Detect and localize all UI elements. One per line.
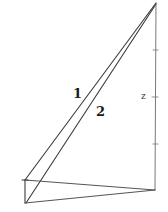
edge-1 — [25, 3, 156, 180]
height-line — [155, 3, 156, 190]
edge-2 — [26, 4, 156, 203]
label-line-2: 2 — [96, 105, 105, 118]
base-edge-top — [25, 180, 155, 190]
wedge-diagram — [0, 0, 168, 212]
label-height-z: z — [141, 92, 146, 101]
base-edge-bottom — [25, 190, 155, 203]
label-line-1: 1 — [73, 87, 82, 100]
